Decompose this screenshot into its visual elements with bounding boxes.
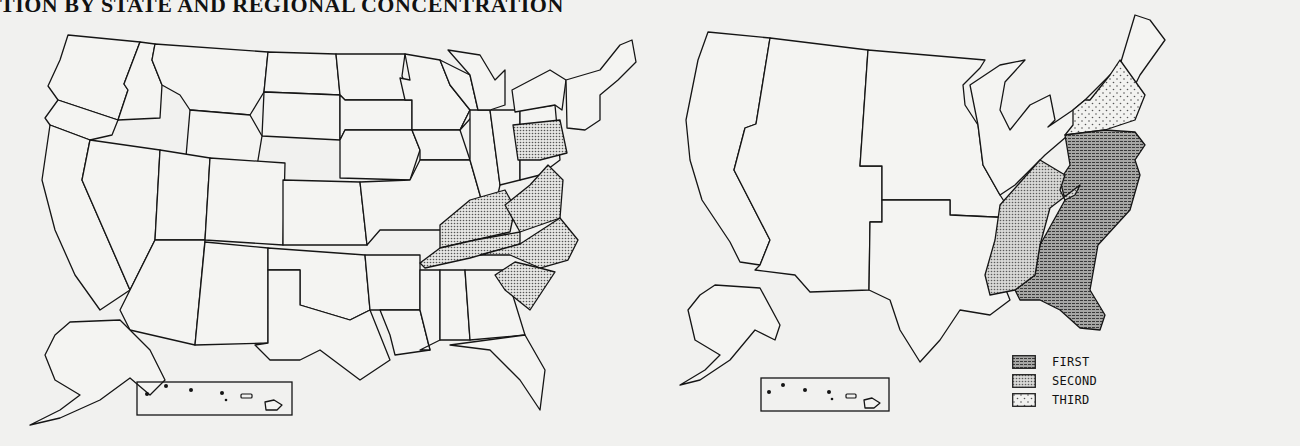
legend-label: FIRST (1052, 355, 1090, 369)
legend-item-third: THIRD (1012, 390, 1097, 409)
legend-label: SECOND (1052, 374, 1097, 388)
second-pattern-swatch (1012, 374, 1036, 388)
legend-item-first: FIRST (1012, 352, 1097, 371)
state-map (0, 0, 660, 446)
legend-item-second: SECOND (1012, 371, 1097, 390)
us-states-outline (30, 35, 636, 425)
first-pattern-swatch (1012, 355, 1036, 369)
third-pattern-swatch (1012, 393, 1036, 407)
regional-map (660, 0, 1300, 446)
legend-label: THIRD (1052, 393, 1090, 407)
map-legend: FIRST SECOND THIRD (1012, 352, 1097, 409)
